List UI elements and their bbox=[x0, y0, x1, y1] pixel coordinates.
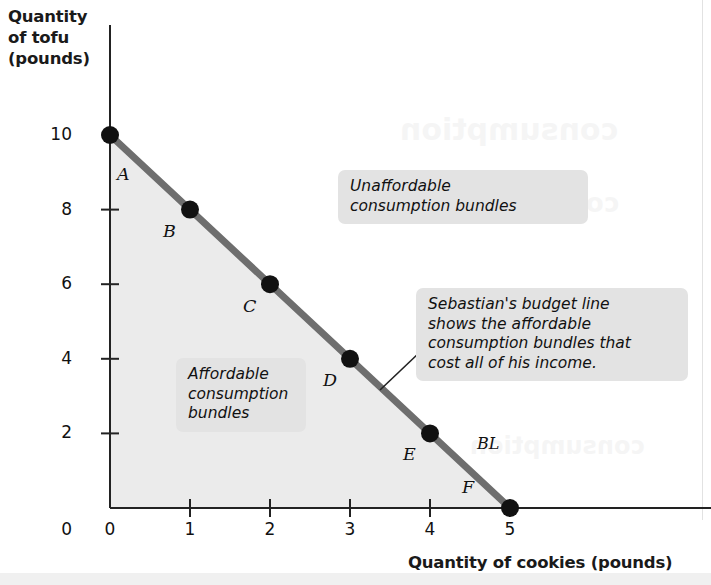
y-tick-label-10: 10 bbox=[38, 124, 72, 144]
budget-line-label: BL bbox=[477, 434, 499, 453]
point-label-d: D bbox=[323, 370, 337, 390]
x-tick-label-1: 1 bbox=[178, 519, 202, 539]
annotation-budget-line4: cost all of his income. bbox=[428, 354, 676, 374]
annotation-unaffordable-bundles: Unaffordable consumption bundles bbox=[338, 170, 588, 224]
x-tick-label-0: 0 bbox=[98, 519, 122, 539]
x-tick-label-4: 4 bbox=[418, 519, 442, 539]
x-tick-label-2: 2 bbox=[258, 519, 282, 539]
point-label-f: F bbox=[462, 477, 474, 497]
point-label-e: E bbox=[403, 444, 416, 464]
data-point-b bbox=[181, 201, 199, 219]
budget-line-chart-figure: consumption consumption consumption Quan… bbox=[0, 0, 711, 585]
annotation-unaffordable-line1: Unaffordable bbox=[350, 177, 576, 197]
annotation-budget-line3: consumption bundles that bbox=[428, 334, 676, 354]
y-tick-label-8: 8 bbox=[38, 199, 72, 219]
y-tick-label-6: 6 bbox=[38, 273, 72, 293]
annotation-budget-line-explainer: Sebastian's budget line shows the afford… bbox=[416, 288, 688, 381]
annotation-budget-line2: shows the affordable bbox=[428, 315, 676, 335]
y-tick-label-0: 0 bbox=[38, 519, 72, 539]
annotation-budget-line1: Sebastian's budget line bbox=[428, 295, 676, 315]
x-tick-label-3: 3 bbox=[338, 519, 362, 539]
data-point-c bbox=[261, 275, 279, 293]
callout-leader-line bbox=[380, 352, 420, 390]
annotation-affordable-line1: Affordable bbox=[188, 365, 294, 385]
data-point-d bbox=[341, 350, 359, 368]
data-point-a bbox=[101, 126, 119, 144]
data-point-e bbox=[421, 424, 439, 442]
point-label-c: C bbox=[243, 296, 256, 316]
annotation-affordable-line3: bundles bbox=[188, 404, 294, 424]
data-point-f bbox=[501, 499, 519, 517]
annotation-affordable-line2: consumption bbox=[188, 385, 294, 405]
point-label-b: B bbox=[163, 221, 176, 241]
annotation-unaffordable-line2: consumption bundles bbox=[350, 197, 576, 217]
y-tick-label-2: 2 bbox=[38, 422, 72, 442]
point-label-a: A bbox=[117, 164, 130, 184]
annotation-affordable-bundles: Affordable consumption bundles bbox=[176, 358, 306, 432]
x-tick-label-5: 5 bbox=[498, 519, 522, 539]
y-tick-label-4: 4 bbox=[38, 348, 72, 368]
